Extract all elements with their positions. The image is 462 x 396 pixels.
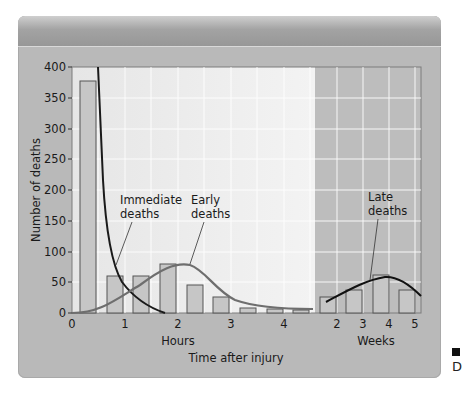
svg-text:4: 4: [385, 317, 392, 331]
bar: [240, 308, 256, 313]
svg-text:250: 250: [44, 152, 66, 166]
bar: [267, 309, 283, 313]
bar: [320, 297, 336, 313]
weeks-label: Weeks: [357, 334, 395, 348]
cropped-square-glyph: [452, 348, 460, 356]
svg-text:5: 5: [411, 317, 418, 331]
svg-text:50: 50: [51, 275, 66, 289]
y-tick-labels: 400 350 300 250 200 150 100 50 0: [44, 60, 66, 320]
x-tick-labels: 0 1 2 3 4 2 3 4 5: [68, 317, 418, 331]
svg-text:100: 100: [44, 245, 66, 259]
svg-text:4: 4: [280, 317, 287, 331]
svg-text:2: 2: [333, 317, 340, 331]
bar: [293, 310, 309, 313]
late-deaths-annotation: Late: [368, 190, 393, 204]
svg-text:200: 200: [44, 183, 66, 197]
bar: [213, 297, 229, 313]
cropped-text-fragment: D: [452, 360, 462, 373]
svg-text:0: 0: [68, 317, 75, 331]
svg-text:300: 300: [44, 122, 66, 136]
hours-label: Hours: [161, 334, 195, 348]
svg-text:3: 3: [359, 317, 366, 331]
svg-text:150: 150: [44, 214, 66, 228]
svg-text:3: 3: [227, 317, 234, 331]
svg-text:400: 400: [44, 60, 66, 74]
svg-text:deaths: deaths: [191, 207, 230, 221]
svg-text:deaths: deaths: [120, 207, 159, 221]
bar: [187, 285, 203, 313]
bar: [133, 276, 149, 313]
y-axis-label: Number of deaths: [29, 138, 43, 242]
immediate-deaths-annotation: Immediate: [120, 193, 182, 207]
bar: [80, 81, 96, 313]
bar: [399, 290, 415, 313]
svg-text:350: 350: [44, 91, 66, 105]
early-deaths-annotation: Early: [191, 193, 220, 207]
svg-text:1: 1: [121, 317, 128, 331]
bar: [346, 290, 362, 313]
svg-text:deaths: deaths: [368, 204, 407, 218]
svg-text:2: 2: [174, 317, 181, 331]
x-axis-label: Time after injury: [187, 351, 283, 365]
bar: [373, 275, 389, 313]
svg-text:0: 0: [59, 306, 66, 320]
